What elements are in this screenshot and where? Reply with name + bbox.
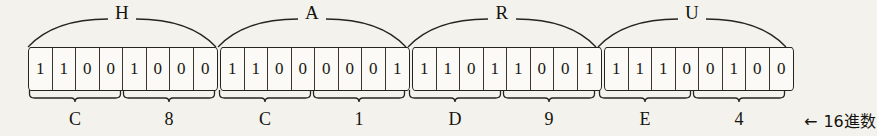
hex-digit-label: D: [449, 109, 462, 130]
bit-cell: 0: [531, 48, 555, 90]
bit-cell: 1: [629, 48, 653, 90]
bit-cell: 0: [170, 48, 194, 90]
nibble-braces-svg: [0, 89, 877, 111]
bit-cell: 0: [339, 48, 363, 90]
character-label-h: H: [115, 2, 129, 24]
bit-cell: 0: [315, 48, 339, 90]
character-arc: [408, 19, 488, 47]
bit-cell: 0: [292, 48, 316, 90]
character-arc: [136, 19, 216, 47]
character-arc: [218, 19, 298, 47]
character-arc: [706, 19, 786, 47]
bit-cell: 1: [605, 48, 629, 90]
char-group-r: 11011001: [412, 47, 602, 91]
bit-cell: 0: [460, 48, 484, 90]
bit-cell: 1: [123, 48, 147, 90]
bit-cell: 1: [413, 48, 437, 90]
hex-digit-label: 9: [545, 109, 554, 130]
hex-digit-label: 4: [735, 109, 744, 130]
bit-cell: 1: [221, 48, 245, 90]
bit-cell: 1: [507, 48, 531, 90]
character-label-u: U: [685, 2, 699, 24]
character-arc-layer: HARU: [0, 0, 877, 50]
encoding-diagram: HARU 11001000110000011101100111100100 C8…: [0, 0, 877, 136]
character-label-r: R: [495, 2, 508, 24]
bit-cell: 0: [554, 48, 578, 90]
bit-cell: 1: [652, 48, 676, 90]
annotation-text: 16進数: [823, 112, 875, 131]
nibble-brace: [600, 90, 691, 102]
bit-cell: 0: [746, 48, 770, 90]
bit-cell-grid: 11001000110000011101100111100100: [28, 47, 794, 91]
bit-cell: 1: [437, 48, 461, 90]
bit-cell: 1: [723, 48, 747, 90]
bit-cell: 1: [245, 48, 269, 90]
char-group-a: 11000001: [220, 47, 410, 91]
bit-cell: 0: [76, 48, 100, 90]
bit-cell: 1: [578, 48, 602, 90]
nibble-brace: [30, 90, 121, 102]
bit-cell: 1: [484, 48, 508, 90]
char-group-u: 11100100: [604, 47, 794, 91]
hex-digit-label: E: [640, 109, 651, 130]
nibble-brace: [504, 90, 595, 102]
character-arc: [516, 19, 596, 47]
bit-cell: 0: [100, 48, 124, 90]
character-label-a: A: [305, 2, 319, 24]
bit-cell: 0: [194, 48, 218, 90]
nibble-brace: [314, 90, 405, 102]
bit-cell: 0: [147, 48, 171, 90]
nibble-brace: [220, 90, 311, 102]
bit-cell: 1: [53, 48, 77, 90]
bit-cell: 0: [268, 48, 292, 90]
character-arcs-svg: [0, 0, 877, 50]
bit-cell: 1: [386, 48, 410, 90]
character-arc: [326, 19, 406, 47]
nibble-brace: [694, 90, 785, 102]
hex-digit-label: C: [69, 109, 81, 130]
bit-cell: 1: [29, 48, 53, 90]
nibble-brace-layer: C8C1D9E4: [0, 89, 877, 136]
hex-digit-label: C: [259, 109, 271, 130]
bit-cell: 0: [676, 48, 700, 90]
hex-digit-label: 8: [165, 109, 174, 130]
bit-cell: 0: [699, 48, 723, 90]
bit-cell: 0: [362, 48, 386, 90]
character-arc: [598, 19, 678, 47]
nibble-brace: [124, 90, 215, 102]
bit-cell: 0: [770, 48, 794, 90]
annotation-arrow-icon: ←: [804, 112, 817, 131]
char-group-h: 11001000: [28, 47, 218, 91]
hex-digit-label: 1: [355, 109, 364, 130]
nibble-brace: [410, 90, 501, 102]
hexadecimal-annotation: ←16進数: [804, 108, 876, 132]
character-arc: [28, 19, 108, 47]
